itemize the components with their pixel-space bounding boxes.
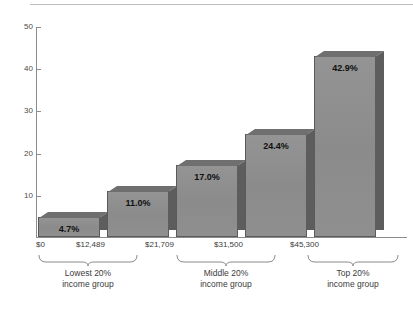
bar-fourth-quintile[interactable]: 24.4% [245,134,307,237]
x-axis-line [36,237,407,238]
brace-top-group [307,255,399,266]
bar-top-face [108,186,177,192]
y-tick-20: 20 [37,154,41,155]
y-tick-label-40: 40 [24,65,33,73]
y-tick-30: 30 [37,111,41,112]
bar-value-label: 24.4% [246,141,306,151]
bar-value-label: 4.7% [39,224,99,234]
y-tick-label-10: 10 [24,192,33,200]
x-tick-label-45300: $45,300 [290,240,319,249]
group-caption-lowest: Lowest 20% income group [38,268,138,290]
bar-second-quintile[interactable]: 11.0% [107,191,169,237]
y-tick-10: 10 [37,196,41,197]
x-tick-label-31500: $31,500 [214,240,243,249]
bar-top-face [39,212,108,218]
brace-lowest-group [38,255,138,266]
bar-front-face [315,57,375,236]
y-tick-50: 50 [37,27,41,28]
bar-side-face [375,51,384,230]
group-caption-top: Top 20% income group [307,268,399,290]
cropped-header-text [170,0,350,4]
group-caption-middle-line1: Middle 20% [176,268,276,279]
bar-lowest-quintile[interactable]: 4.7% [38,217,100,237]
bar-top-face [177,160,246,166]
bar-middle-quintile[interactable]: 17.0% [176,165,238,237]
header-divider [30,4,413,5]
x-tick-label-21709: $21,709 [145,240,174,249]
group-caption-lowest-line2: income group [38,279,138,290]
group-caption-middle-line2: income group [176,279,276,290]
group-caption-middle: Middle 20% income group [176,268,276,290]
y-tick-label-50: 50 [24,23,33,31]
group-caption-lowest-line1: Lowest 20% [38,268,138,279]
y-tick-40: 40 [37,69,41,70]
y-tick-label-30: 30 [24,107,33,115]
bar-top-quintile[interactable]: 42.9% [314,56,376,237]
bar-top-face [315,51,384,57]
y-axis-line [36,27,37,238]
x-tick-label-12489: $12,489 [76,240,105,249]
group-caption-top-line2: income group [307,279,399,290]
y-tick-label-20: 20 [24,150,33,158]
plot-area: 50 40 30 20 10 4.7% 11.0% [36,27,407,238]
group-caption-top-line1: Top 20% [307,268,399,279]
income-distribution-bar-chart: 50 40 30 20 10 4.7% 11.0% [0,0,413,311]
bar-value-label: 42.9% [315,63,375,73]
x-tick-label-0: $0 [36,240,45,249]
bar-top-face [246,129,315,135]
bar-value-label: 17.0% [177,172,237,182]
bar-value-label: 11.0% [108,198,168,208]
brace-middle-group [176,255,276,266]
